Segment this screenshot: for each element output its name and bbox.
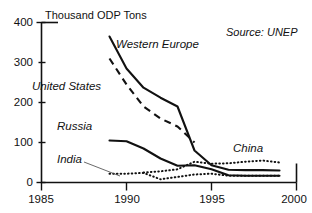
series-label-russia: Russia xyxy=(57,120,92,132)
source-annotation: Source: UNEP xyxy=(226,26,298,38)
series-label-china: China xyxy=(233,142,263,154)
ozone-depleting-substances-line-chart: Thousand ODP Tons 400 300 200 100 0 xyxy=(0,0,312,213)
y-tick-label-200: 200 xyxy=(14,96,33,108)
series-label-united-states: United States xyxy=(32,80,101,92)
series-group xyxy=(110,37,280,180)
x-axis-tick-labels: 1985 1990 1995 2000 xyxy=(28,193,307,205)
chart-container: Thousand ODP Tons 400 300 200 100 0 xyxy=(0,0,312,213)
x-tick-label-2000: 2000 xyxy=(281,193,307,205)
x-tick-label-1990: 1990 xyxy=(114,193,140,205)
y-axis-tick-labels: 400 300 200 100 0 xyxy=(14,16,33,188)
series-label-western-europe: Western Europe xyxy=(116,38,199,50)
series-line-united-states xyxy=(110,59,195,143)
x-tick-label-1995: 1995 xyxy=(199,193,225,205)
y-tick-label-0: 0 xyxy=(27,176,33,188)
india-leader-line xyxy=(84,162,120,176)
series-label-india: India xyxy=(57,153,82,165)
y-tick-label-400: 400 xyxy=(14,16,33,28)
y-tick-label-100: 100 xyxy=(14,136,33,148)
chart-title: Thousand ODP Tons xyxy=(45,9,147,21)
x-axis-ticks xyxy=(42,183,297,191)
x-tick-label-1985: 1985 xyxy=(28,193,54,205)
y-tick-label-300: 300 xyxy=(14,56,33,68)
